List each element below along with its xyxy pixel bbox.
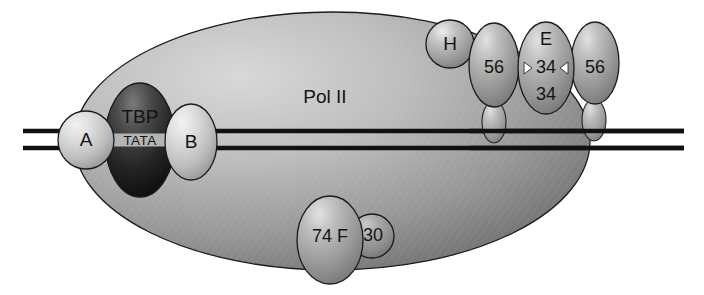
preinitiation-complex-diagram: TBP TATA A B Pol II H 56 56 E 34 bbox=[0, 0, 704, 295]
tfiia-label: A bbox=[80, 129, 93, 150]
tfiih-factor[interactable]: H bbox=[426, 20, 474, 68]
tfiif-56-right-subunit[interactable]: 56 bbox=[571, 22, 619, 104]
tfiif-56-right-label: 56 bbox=[585, 57, 605, 77]
pol-ii-label: Pol II bbox=[303, 86, 346, 107]
diagram-canvas: TBP TATA A B Pol II H 56 56 E 34 bbox=[0, 0, 704, 295]
tfiie-34-top-label: E bbox=[540, 29, 552, 49]
tfiia-factor[interactable]: A bbox=[58, 111, 114, 169]
tfiib-label: B bbox=[185, 131, 198, 152]
tfiih-label: H bbox=[443, 33, 457, 54]
tfiif-56-left-subunit[interactable]: 56 bbox=[469, 23, 519, 107]
tfiif-30-label: 30 bbox=[363, 225, 383, 245]
tata-box-label: TATA bbox=[123, 133, 156, 148]
tfiif-74-label: 74 F bbox=[312, 226, 348, 246]
stalk-right-56 bbox=[582, 99, 606, 141]
tfiie-34-bottom-label: 34 bbox=[536, 84, 556, 104]
tfiie-center-label: 34 bbox=[536, 57, 556, 77]
tfiie-factor[interactable]: E 34 34 bbox=[518, 22, 574, 114]
tfiif-56-left-label: 56 bbox=[484, 57, 504, 77]
tbp-label: TBP bbox=[122, 106, 159, 127]
tfiib-factor[interactable]: B bbox=[165, 104, 217, 180]
